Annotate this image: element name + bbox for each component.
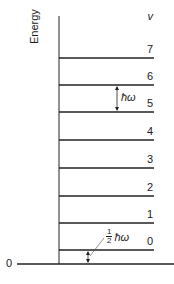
level-label: 6 bbox=[147, 70, 153, 82]
fraction-denominator: 2 bbox=[107, 237, 111, 245]
quantum-number-header: v bbox=[148, 10, 154, 22]
energy-axis-label: Energy bbox=[28, 9, 40, 44]
level-label: 1 bbox=[147, 208, 153, 220]
zero-point-annotation: 1 2 ħω bbox=[106, 228, 129, 245]
level-label: 0 bbox=[147, 235, 153, 247]
level-label: 2 bbox=[147, 181, 153, 193]
zero-point-symbol: ħω bbox=[114, 231, 129, 243]
level-label: 7 bbox=[147, 43, 153, 55]
baseline-zero-label: 0 bbox=[6, 257, 12, 269]
energy-levels bbox=[59, 58, 154, 250]
level-label: 4 bbox=[147, 125, 153, 137]
spacing-arrow-icon bbox=[115, 86, 119, 111]
level-label: 5 bbox=[147, 97, 153, 109]
level-label: 3 bbox=[147, 153, 153, 165]
spacing-annotation: ħω bbox=[121, 91, 136, 103]
